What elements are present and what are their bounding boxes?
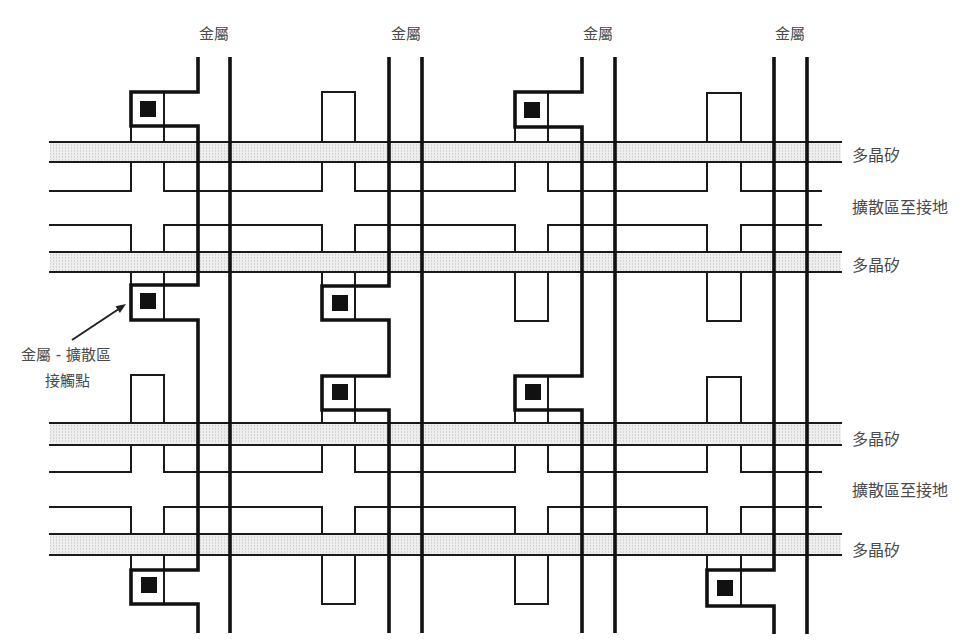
metal-label: 金屬 — [775, 25, 805, 43]
contact-square-icon — [332, 295, 348, 311]
diffusion-strip-upper — [50, 162, 821, 252]
metal-label: 金屬 — [583, 25, 613, 43]
callout-label-line2: 接觸點 — [45, 372, 90, 390]
contact-square-icon — [140, 101, 156, 117]
polysilicon-band-4 — [50, 534, 841, 555]
diffusion-stub-c2-bottom — [322, 555, 355, 604]
contact-square-icon — [141, 577, 157, 593]
contact-square-icon — [717, 580, 733, 596]
metal-label: 金屬 — [199, 25, 229, 43]
contact-square-icon — [524, 102, 540, 118]
metal-labels: 金屬 金屬 金屬 金屬 — [199, 25, 805, 43]
diffusion-strips — [50, 162, 821, 534]
callout-label: 金屬 - 擴散區 接觸點 — [21, 346, 111, 390]
diffusion-stub-c4-mid-upper — [707, 272, 741, 321]
contact-square-icon — [525, 384, 541, 400]
polysilicon-band-3 — [50, 423, 841, 445]
row-label-polysilicon: 多晶矽 — [852, 256, 900, 275]
diffusion-stub-c1-mid-lower — [131, 375, 164, 423]
row-labels: 多晶矽 擴散區至接地 多晶矽 多晶矽 擴散區至接地 多晶矽 — [852, 146, 948, 560]
diffusion-stub-c3-mid-upper — [515, 272, 548, 321]
diffusion-stub-c4-top — [707, 93, 741, 142]
callout-arrow-icon — [72, 304, 126, 340]
diffusion-stub-c2-top — [322, 92, 355, 142]
metal-label: 金屬 — [391, 25, 421, 43]
diffusion-stub-c4-mid-lower — [707, 377, 741, 423]
contact-square-icon — [332, 384, 348, 400]
diffusion-strip-lower — [50, 445, 821, 534]
memory-cell-layout-diagram: 金屬 金屬 金屬 金屬 多晶矽 擴散區至接地 多晶矽 多晶矽 擴散區至接地 多晶… — [0, 0, 976, 643]
polysilicon-bands — [50, 142, 841, 555]
callout-label-line1: 金屬 - 擴散區 — [21, 346, 111, 364]
row-label-polysilicon: 多晶矽 — [852, 146, 900, 165]
polysilicon-band-2 — [50, 252, 841, 272]
row-label-diffusion-ground: 擴散區至接地 — [852, 481, 948, 500]
diffusion-stubs — [131, 92, 741, 606]
row-label-polysilicon: 多晶矽 — [852, 541, 900, 560]
row-label-polysilicon: 多晶矽 — [852, 430, 900, 449]
polysilicon-band-1 — [50, 142, 841, 162]
diffusion-stub-c3-bottom — [515, 555, 548, 604]
row-label-diffusion-ground: 擴散區至接地 — [852, 198, 948, 217]
contact-square-icon — [140, 293, 156, 309]
